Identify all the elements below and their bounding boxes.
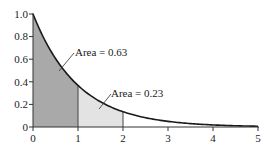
y-tick-label: 0.6	[14, 53, 28, 65]
x-tick-label: 5	[255, 132, 261, 144]
y-tick-label: 0.8	[14, 30, 28, 42]
area2-label: Area = 0.23	[111, 87, 164, 99]
y-tick-label: 1.0	[14, 8, 28, 20]
area1-label: Area = 0.63	[75, 46, 128, 58]
x-tick-label: 0	[30, 132, 36, 144]
y-tick-label: 0.2	[14, 98, 28, 110]
x-axis-ticks	[33, 127, 258, 131]
exponential-area-chart: 1.0 0.8 0.6 0.4 0.2 0 0 1 2 3 4 5 Area =…	[0, 0, 264, 150]
y-axis-ticks	[29, 14, 33, 127]
y-tick-label: 0.4	[14, 76, 28, 88]
x-tick-label: 2	[120, 132, 126, 144]
x-tick-label: 4	[210, 132, 216, 144]
x-tick-label: 3	[165, 132, 171, 144]
x-tick-label: 1	[75, 132, 81, 144]
y-tick-label: 0	[23, 121, 29, 133]
area1-leader-line	[59, 53, 74, 71]
